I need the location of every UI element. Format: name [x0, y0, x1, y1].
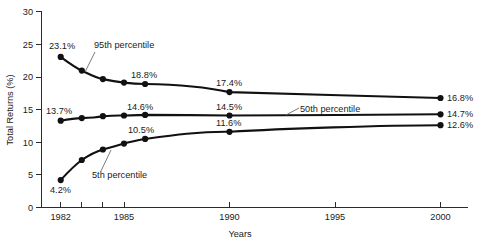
data-point	[79, 115, 85, 121]
leader-line-95th-percentile	[85, 52, 95, 72]
y-axis-ticks	[36, 12, 42, 208]
series-line-95th-percentile	[61, 57, 441, 98]
data-point	[226, 129, 232, 135]
data-point	[100, 76, 106, 82]
series-markers-50th-percentile	[58, 111, 444, 124]
series-label-5th-percentile: 5th percentile	[92, 170, 147, 180]
label-11-6-percent: 11.6%	[216, 118, 241, 128]
data-point	[79, 157, 85, 163]
y-axis-title: Total Returns (%)	[5, 75, 15, 146]
x-axis-title: Years	[228, 229, 252, 239]
data-point	[437, 122, 443, 128]
data-point	[121, 80, 127, 86]
y-axis-tick-labels: 0 5 10 15 20 25 30	[23, 7, 33, 213]
series-markers-95th-percentile	[58, 54, 444, 101]
x-tick-label-1995: 1995	[325, 212, 345, 222]
x-axis-ticks	[61, 202, 441, 208]
y-tick-label-25: 25	[23, 40, 33, 50]
label-18-8-percent: 18.8%	[131, 70, 157, 80]
data-point	[226, 89, 232, 95]
data-point	[58, 177, 64, 183]
series-line-50th-percentile	[61, 114, 441, 120]
y-tick-label-15: 15	[23, 105, 33, 115]
y-tick-label-0: 0	[28, 203, 33, 213]
label-13-7-percent: 13.7%	[46, 106, 72, 116]
x-tick-label-1985: 1985	[114, 212, 134, 222]
data-point	[100, 146, 106, 152]
x-tick-label-1982: 1982	[50, 212, 70, 222]
x-tick-label-1990: 1990	[219, 212, 239, 222]
data-point	[58, 118, 64, 124]
data-point	[58, 54, 64, 60]
series-label-95th-percentile: 95th percentile	[94, 40, 154, 50]
y-tick-label-30: 30	[23, 7, 33, 17]
data-point	[121, 112, 127, 118]
data-point	[142, 81, 148, 87]
label-17-4-percent: 17.4%	[216, 78, 242, 88]
label-4-2-percent: 4.2%	[50, 185, 71, 195]
y-tick-label-10: 10	[23, 138, 33, 148]
y-tick-label-20: 20	[23, 72, 33, 82]
x-axis-tick-labels: 1982 1985 1990 1995 2000	[50, 212, 450, 222]
data-point	[100, 113, 106, 119]
label-16-8-percent: 16.8%	[447, 93, 473, 103]
x-tick-label-2000: 2000	[430, 212, 450, 222]
label-14-7-percent: 14.7%	[447, 109, 473, 119]
leader-line-50th-percentile	[286, 108, 299, 115]
data-point	[142, 112, 148, 118]
label-23-1-percent: 23.1%	[49, 41, 75, 51]
data-point	[437, 111, 443, 117]
data-point	[121, 141, 127, 147]
label-14-5-percent: 14.5%	[216, 102, 242, 112]
data-point	[142, 136, 148, 142]
percentile-returns-chart: 0 5 10 15 20 25 30 1982 1985 1990 1995 2…	[0, 0, 482, 243]
label-10-5-percent: 10.5%	[128, 125, 154, 135]
data-point	[79, 68, 85, 74]
chart-canvas: 0 5 10 15 20 25 30 1982 1985 1990 1995 2…	[0, 0, 482, 243]
y-tick-label-5: 5	[28, 170, 33, 180]
leader-line-5th-percentile	[101, 150, 111, 171]
label-14-6-percent: 14.6%	[127, 102, 153, 112]
series-label-50th-percentile: 50th percentile	[300, 104, 360, 114]
data-point	[437, 95, 443, 101]
label-12-6-percent: 12.6%	[447, 120, 473, 130]
